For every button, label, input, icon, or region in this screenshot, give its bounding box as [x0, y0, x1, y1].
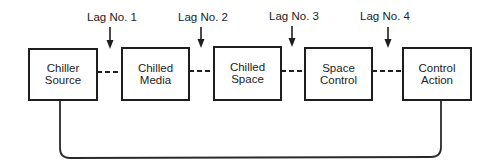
- box-label-line1: Control: [418, 62, 455, 74]
- box-chilled-space: Chilled Space: [214, 47, 281, 100]
- lag-marker-4: Lag No. 4: [360, 10, 410, 48]
- arrowhead-icon: [198, 39, 205, 48]
- box-label-line2: Control: [320, 74, 357, 86]
- arrowhead-icon: [107, 40, 114, 49]
- arrowhead-icon: [385, 39, 392, 48]
- box-label-line2: Action: [421, 74, 453, 86]
- lag-block-diagram: Chiller Source Chilled Media Chilled Spa…: [0, 0, 497, 168]
- lag-marker-3: Lag No. 3: [269, 10, 319, 47]
- box-label-line2: Space: [231, 73, 264, 85]
- box-label-line1: Chilled: [230, 61, 265, 73]
- box-chiller-source: Chiller Source: [29, 49, 97, 100]
- lag-label: Lag No. 1: [87, 11, 137, 23]
- box-label-line1: Space: [322, 62, 355, 74]
- box-space-control: Space Control: [305, 48, 372, 100]
- lag-label: Lag No. 4: [360, 10, 410, 22]
- feedback-loop-line: [60, 100, 441, 158]
- lag-label: Lag No. 3: [269, 10, 319, 22]
- lag-label: Lag No. 2: [178, 11, 228, 23]
- arrowhead-icon: [289, 38, 296, 47]
- box-control-action: Control Action: [403, 48, 471, 100]
- box-label-line1: Chiller: [47, 62, 80, 74]
- lag-marker-1: Lag No. 1: [87, 11, 137, 49]
- box-label-line2: Source: [45, 74, 81, 86]
- box-chilled-media: Chilled Media: [122, 48, 189, 100]
- box-label-line1: Chilled: [138, 62, 173, 74]
- lag-marker-2: Lag No. 2: [178, 11, 228, 48]
- box-label-line2: Media: [140, 74, 172, 86]
